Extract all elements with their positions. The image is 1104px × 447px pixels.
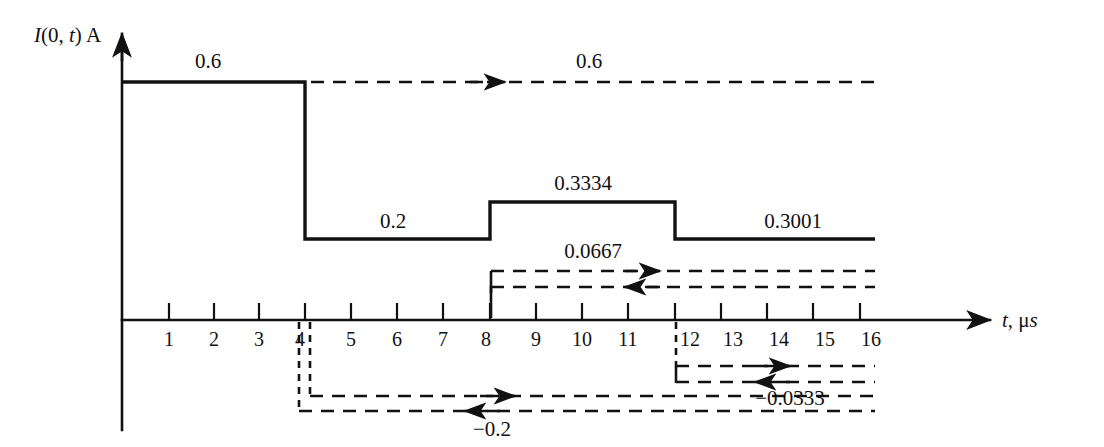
annotation-label--0.0333: −0.0333 [755,386,825,410]
x-axis-title: t, μs [1002,308,1038,332]
current-step-waveform [122,82,875,239]
tick-label-3: 3 [254,328,264,350]
tick-label-14: 14 [769,328,789,350]
annotation-label--0.2: −0.2 [473,417,511,441]
y-axis-title-args-close: ) A [75,23,102,47]
current-vs-time-plot: I(0, t) A t, μs 1 2 3 4 5 [0,0,1104,447]
y-axis-title-args: (0, [41,23,69,47]
step-label-0.3334: 0.3334 [554,171,612,195]
annotation-label-0.0667: 0.0667 [564,239,622,263]
annotation-incident-0.6: 0.6 [311,49,875,82]
annotation-label-0.6: 0.6 [576,49,602,73]
x-axis-tick-labels: 1 2 3 4 5 6 7 8 9 10 11 12 13 14 15 16 [164,328,881,350]
tick-label-2: 2 [209,328,219,350]
axes-group [122,34,990,430]
x-axis-ticks [169,303,860,320]
tick-label-16: 16 [861,328,881,350]
tick-label-5: 5 [346,328,356,350]
tick-label-9: 9 [531,328,541,350]
step-label-0.3001: 0.3001 [764,209,822,233]
tick-label-1: 1 [164,328,174,350]
tick-label-6: 6 [392,328,402,350]
tick-label-10: 10 [572,328,592,350]
tick-label-13: 13 [723,328,743,350]
current-waveform-series [122,82,875,239]
annotation-pair-0.0667: 0.0667 [491,239,875,318]
tick-label-11: 11 [618,328,637,350]
transmission-line-current-figure: I(0, t) A t, μs 1 2 3 4 5 [0,0,1104,447]
tick-label-7: 7 [438,328,448,350]
tick-label-15: 15 [815,328,835,350]
tick-label-12: 12 [680,328,700,350]
tick-label-8: 8 [481,328,491,350]
x-axis-title-unit: s [1030,308,1038,332]
waveform-step-labels: 0.6 0.2 0.3334 0.3001 [195,49,822,233]
y-axis-title: I(0, t) A [33,23,102,47]
x-axis-title-rest: , μ [1008,308,1030,332]
step-label-0.2: 0.2 [380,209,406,233]
step-label-0.6: 0.6 [195,49,221,73]
